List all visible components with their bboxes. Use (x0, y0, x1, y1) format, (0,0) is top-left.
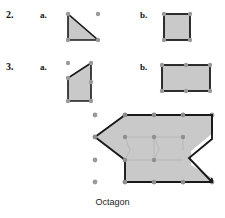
grid-dot (66, 38, 70, 42)
grid-dot (184, 89, 188, 93)
figure-2b-square (158, 8, 202, 48)
problem-2-item-b-letter: b. (140, 11, 147, 20)
grid-dot (96, 38, 100, 42)
figure-3b-rectangle (156, 60, 216, 100)
problem-number-3: 3. (6, 62, 14, 72)
grid-dot (96, 12, 100, 16)
figure-3a-right-trapezoid (58, 58, 106, 108)
worksheet-page: 2. a. b. 3. a. (0, 0, 225, 218)
grid-dot (162, 38, 166, 42)
grid-dot (162, 12, 166, 16)
grid-dot (66, 12, 70, 16)
grid-dot (66, 76, 70, 80)
grid-dot (160, 63, 164, 67)
right-triangle-outline (68, 14, 98, 40)
octagon-caption: Octagon (0, 198, 225, 207)
square-outline (164, 14, 190, 40)
grid-dot (66, 99, 70, 103)
trapezoid-outline (68, 63, 91, 101)
grid-dot (208, 89, 212, 93)
problem-number-2: 2. (6, 10, 14, 20)
grid-dot (89, 80, 93, 84)
grid-dot (188, 12, 192, 16)
problem-3-item-a-letter: a. (40, 63, 47, 72)
figure-2a-right-triangle (60, 8, 114, 48)
problem-2-item-a-letter: a. (40, 11, 47, 20)
grid-dot (184, 63, 188, 67)
problem-3-item-b-letter: b. (140, 63, 147, 72)
grid-dot (188, 38, 192, 42)
figure-octagon (85, 105, 220, 193)
grid-dot (160, 89, 164, 93)
grid-dot (89, 61, 93, 65)
grid-dot (208, 63, 212, 67)
grid-dot (89, 99, 93, 103)
grid-dot (66, 61, 70, 65)
rectangle-outline (162, 65, 210, 91)
